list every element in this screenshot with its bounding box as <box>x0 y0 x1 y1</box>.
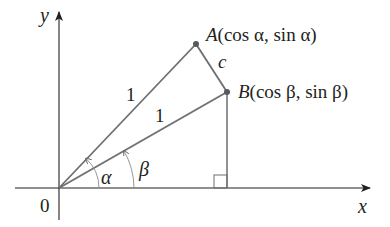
alpha-arc <box>86 159 99 189</box>
alpha-label: α <box>101 166 112 188</box>
x-axis-label: x <box>357 195 367 217</box>
diagram-canvas: y x 0 A(cos α, sin α) B(cos β, sin β) 1 … <box>0 0 390 227</box>
segment-OA <box>59 44 196 188</box>
origin-label: 0 <box>40 195 50 216</box>
beta-arc <box>124 151 134 188</box>
beta-label: β <box>138 158 149 181</box>
y-axis-label: y <box>38 4 49 27</box>
segment-OA-label: 1 <box>126 84 136 105</box>
segment-OB-label: 1 <box>155 105 165 126</box>
point-A-label: A(cos α, sin α) <box>204 24 317 46</box>
point-B-coords: (cos β, sin β) <box>250 81 349 103</box>
point-B <box>224 89 230 95</box>
point-B-name: B <box>238 81 250 102</box>
point-B-label: B(cos β, sin β) <box>238 81 348 103</box>
point-A-coords: (cos α, sin α) <box>218 24 317 46</box>
right-angle-marker <box>214 175 227 188</box>
point-A-name: A <box>204 24 218 45</box>
segment-AB-label: c <box>218 51 227 72</box>
point-A <box>193 41 199 47</box>
